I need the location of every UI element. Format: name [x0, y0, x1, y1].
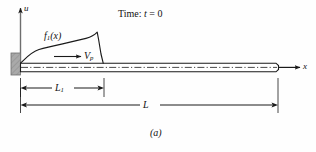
- L-dimension-label: L: [143, 100, 149, 110]
- support-hatch-block: [11, 53, 21, 75]
- f1-function-label: f1(x): [44, 31, 61, 42]
- u-axis-label: u: [24, 4, 29, 13]
- figure-container: Time: t = 0 u x f1(x) Vp L1 L (a): [0, 0, 316, 152]
- time-label-prefix: Time:: [118, 8, 144, 19]
- x-axis-label: x: [303, 62, 307, 71]
- L1-subscript: 1: [61, 86, 64, 93]
- vp-subscript: p: [90, 54, 93, 61]
- f1-argument: (x): [50, 30, 61, 41]
- figure-caption: (a): [150, 128, 162, 138]
- time-equals: =: [147, 8, 158, 19]
- vp-velocity-label: Vp: [84, 51, 94, 62]
- time-label: Time: t = 0: [118, 9, 162, 19]
- caption-letter: a: [153, 127, 158, 138]
- time-value: 0: [157, 8, 162, 19]
- L1-dimension-label: L1: [55, 83, 64, 94]
- fixed-support: [11, 53, 21, 75]
- bar-body: [21, 63, 279, 72]
